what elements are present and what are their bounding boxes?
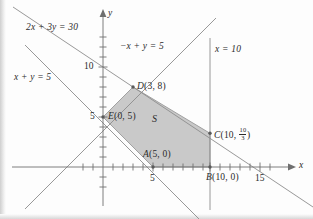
- x-tick-label-5: 5: [150, 173, 155, 183]
- line-label-x-plus-y-5: x + y = 5: [14, 72, 51, 82]
- point-label-d: D(3, 8): [137, 81, 166, 91]
- y-axis-arrowhead: [100, 9, 107, 17]
- y-axis-label: y: [108, 8, 112, 18]
- point-label-c: C(10, 103): [214, 127, 250, 142]
- x-axis-label: x: [299, 160, 303, 170]
- line-label-x-equals-10: x = 10: [215, 44, 241, 54]
- y-tick-label-5: 5: [90, 111, 95, 121]
- point-label-e: E(0, 5): [108, 111, 136, 121]
- math-graph-figure: 2x + 3y = 30 −x + y = 5 x = 10 x + y = 5…: [0, 0, 313, 219]
- y-tick-label-10: 10: [84, 61, 94, 71]
- line-label-minus-x-plus-y-5: −x + y = 5: [120, 41, 164, 51]
- graph-canvas: [0, 0, 313, 219]
- region-label-s: S: [152, 113, 157, 124]
- x-axis-arrowhead: [288, 164, 296, 171]
- line-2x-3y-30: [13, 7, 313, 207]
- point-label-b: B(10, 0): [206, 172, 239, 182]
- point-label-a: A(5, 0): [143, 149, 171, 159]
- x-tick-label-15: 15: [255, 173, 265, 183]
- fraction-ten-thirds: 103: [239, 127, 246, 142]
- line-label-2x-3y-30: 2x + 3y = 30: [26, 22, 78, 32]
